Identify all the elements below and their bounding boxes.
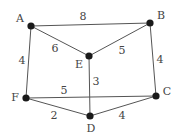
edge-weight-a-e: 6 [52,42,59,55]
edge-weight-e-b: 5 [119,44,126,57]
edge-a-b [31,23,150,26]
edge-weight-f-d: 2 [51,109,58,122]
node-b [146,19,153,26]
graph-diagram: 865443524ABEFCD [0,0,175,137]
node-f [22,94,29,101]
edge-weight-d-c: 4 [119,109,126,122]
node-label-e: E [75,58,83,71]
edge-a-e [31,26,89,56]
edge-e-d [89,56,90,116]
node-d [86,112,93,119]
edge-weight-a-f: 4 [19,54,26,67]
edges-group [26,23,156,116]
node-e [85,52,92,59]
edge-f-c [26,96,156,98]
node-label-b: B [157,9,165,22]
edge-weight-b-c: 4 [157,53,164,66]
edge-b-c [150,23,156,96]
node-label-c: C [163,85,171,98]
node-a [27,22,34,29]
node-c [152,92,159,99]
edge-weight-f-c: 5 [61,84,68,97]
node-label-f: F [11,91,19,104]
edge-weight-e-d: 3 [93,75,100,88]
nodes-group [22,19,159,119]
node-label-a: A [15,12,25,25]
edge-f-d [26,98,90,116]
edge-weight-a-b: 8 [80,10,87,23]
edge-a-f [26,26,31,98]
node-label-d: D [87,122,96,135]
